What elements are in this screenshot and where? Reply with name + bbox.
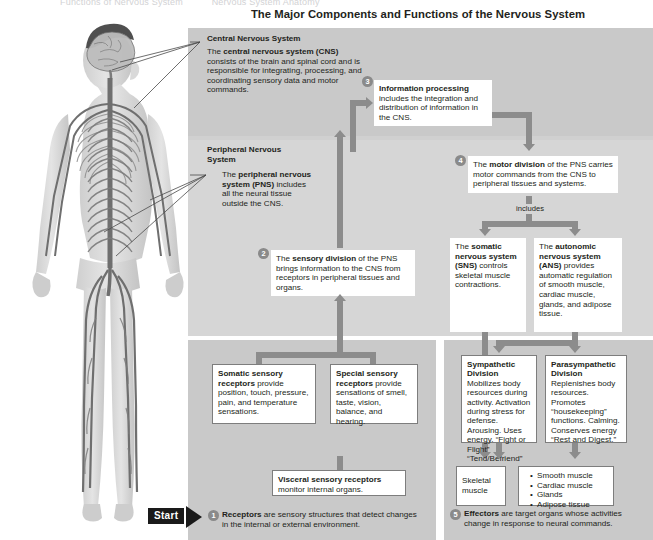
skeletal-muscle-box: Skeletal muscle (456, 466, 506, 506)
somatic-sensory-box: Somatic sensory receptors provide positi… (212, 364, 316, 424)
autonomic-target-2: Glands (537, 490, 608, 500)
arrow-to-step3-head (366, 97, 373, 109)
step-1-number: 1 (208, 510, 219, 521)
step-3-box: Information processing includes the inte… (374, 80, 492, 126)
visceral-receptor-stem (337, 456, 343, 470)
page-title: The Major Components and Functions of th… (188, 8, 648, 20)
cns-heading: Central Nervous System (207, 34, 367, 44)
step-4-box: The motor division of the PNS carries mo… (468, 156, 618, 193)
cns-callout: Central Nervous System (207, 34, 367, 44)
parasympathetic-stem-head (569, 452, 581, 459)
parasympathetic-box: ParasympatheticDivision Replenishes body… (545, 355, 627, 443)
step-4-number: 4 (455, 155, 466, 166)
ans-bracket (496, 340, 578, 346)
split-right-head (569, 229, 581, 236)
arrow-step3-to-step4-head (523, 144, 535, 151)
parasympathetic-heading: ParasympatheticDivision (551, 360, 621, 379)
autonomic-target-3: Adipose tissue (537, 500, 608, 510)
pns-heading: Peripheral NervousSystem (207, 145, 317, 164)
autonomic-targets-list: Smooth muscle Cardiac muscle Glands Adip… (528, 471, 608, 509)
split-bracket (482, 221, 578, 227)
step-3-number: 3 (362, 76, 373, 87)
sensory-join-bar (256, 352, 376, 358)
parasympathetic-head (569, 346, 581, 353)
arrow-step3-to-step4-v (526, 112, 532, 146)
start-arrow-icon (186, 506, 202, 528)
parasympathetic-line-3: Conserves energy (551, 426, 617, 435)
receptors-to-step2-head (334, 294, 346, 301)
step4-includes-stem2 (526, 214, 532, 221)
receptors-to-step2-stem (337, 300, 343, 355)
step4-includes-stem (526, 196, 532, 204)
step2-to-cns-head (334, 130, 346, 137)
sns-box: The somatic nervous system (SNS) control… (450, 238, 526, 332)
parasympathetic-line-2: Calming. (588, 416, 620, 425)
step-2-number: 2 (258, 248, 269, 259)
sympathetic-box: SympatheticDivision Mobilizes body resou… (461, 355, 537, 443)
step2-to-cns-stem (337, 136, 343, 248)
start-flag: Start (148, 508, 184, 524)
special-sensory-box: Special sensory receptors provide sensat… (330, 364, 418, 424)
cns-body: The central nervous system (CNS) consist… (207, 47, 367, 95)
step-5-number: 5 (450, 509, 461, 520)
step-1-text: Receptors are sensory structures that de… (222, 510, 422, 529)
parasympathetic-line-4: “Rest and Digest.” (551, 435, 616, 444)
pns-callout: Peripheral NervousSystem (207, 145, 317, 164)
sympathetic-head (493, 346, 505, 353)
sympathetic-heading: SympatheticDivision (467, 360, 531, 379)
nervous-system-figure-page: Functions of Nervous System Nervous Syst… (0, 0, 653, 540)
parasympathetic-line-0: Replenishes body resources. (551, 379, 615, 397)
skeletal-muscle-label: Skeletal muscle (462, 476, 500, 495)
autonomic-targets-box: Smooth muscle Cardiac muscle Glands Adip… (518, 466, 614, 506)
sympathetic-stem-head (493, 452, 505, 459)
autonomic-target-1: Cardiac muscle (537, 481, 608, 491)
arrow-to-step3-vertical (350, 100, 356, 152)
step-5-text: Effectors are target organs whose activi… (464, 509, 644, 528)
ans-box: The autonomic nervous system (ANS) provi… (534, 238, 622, 332)
autonomic-target-0: Smooth muscle (537, 471, 608, 481)
step-2-box: The sensory division of the PNS brings i… (271, 250, 415, 296)
split-left-head (479, 229, 491, 236)
pns-body: The peripheral nervous system (PNS) incl… (222, 170, 314, 208)
visceral-sensory-box: Visceral sensory receptors monitor inter… (272, 470, 406, 496)
includes-label: includes (500, 204, 560, 213)
